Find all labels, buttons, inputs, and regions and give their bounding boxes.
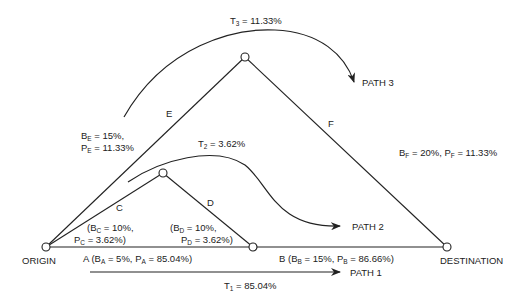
origin-label: ORIGIN	[22, 255, 56, 266]
destination-node	[443, 243, 451, 251]
path-3-flow-arrow	[124, 30, 354, 117]
edge-e-params-p: PE = 11.33%	[81, 142, 135, 154]
edge-d-params-p: PD = 3.62%)	[181, 234, 233, 246]
edge-c-params-p: PC = 3.62%)	[74, 234, 126, 246]
edge-f-params: BF = 20%, PF = 11.33%	[399, 147, 498, 159]
destination-label: DESTINATION	[440, 255, 503, 266]
origin-node	[42, 243, 50, 251]
path-3-throughput: T3 = 11.33%	[230, 15, 282, 27]
edge-f-label: F	[328, 118, 334, 129]
edge-e	[46, 57, 245, 247]
path-1-label: PATH 1	[350, 267, 382, 278]
edge-e-label: E	[166, 108, 172, 119]
junction-node-ab	[249, 243, 257, 251]
path-2-throughput: T2 = 3.62%	[198, 138, 246, 150]
edge-c-label: C	[116, 202, 123, 213]
path-3-label: PATH 3	[362, 77, 394, 88]
path-1-throughput: T1 = 85.04%	[224, 280, 277, 292]
edge-b-params: B (BB = 15%, PB = 86.66%)	[279, 253, 394, 265]
junction-node-cd	[159, 169, 167, 177]
path-2-label: PATH 2	[352, 221, 384, 232]
path-2-flow-arrow	[128, 156, 340, 226]
edge-a-params: A (BA = 5%, PA = 85.04%)	[83, 253, 192, 265]
junction-node-ef	[241, 53, 249, 61]
network-path-diagram: ORIGIN DESTINATION E F C D BE = 15%, PE …	[0, 0, 531, 305]
edge-d-params-b: (BD = 10%,	[170, 222, 217, 234]
edge-c-params-b: (BC = 10%,	[87, 222, 134, 234]
edge-e-params-b: BE = 15%,	[81, 130, 124, 142]
edge-d-label: D	[207, 197, 214, 208]
